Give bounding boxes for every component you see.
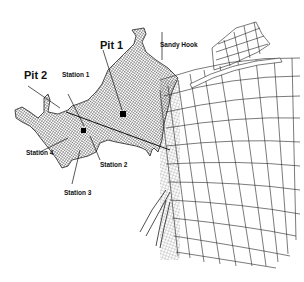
station3-label: Station 3 xyxy=(64,190,91,197)
station2-label: Station 2 xyxy=(100,162,127,169)
mesh-diagram xyxy=(0,0,304,282)
sandy-hook-label: Sandy Hook xyxy=(160,42,198,49)
station-marker xyxy=(81,128,86,133)
bay-mesh xyxy=(15,28,178,168)
pit1-marker xyxy=(120,111,126,117)
pit1-label: Pit 1 xyxy=(100,40,123,51)
pit2-label: Pit 2 xyxy=(24,70,47,81)
station4-label: Station 4 xyxy=(26,150,53,157)
ocean-mesh xyxy=(160,58,300,268)
station1-label: Station 1 xyxy=(62,72,89,79)
